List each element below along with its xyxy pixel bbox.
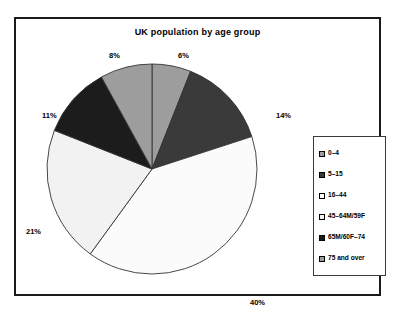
legend-item-label: 16–44 xyxy=(328,192,346,199)
chart-title: UK population by age group xyxy=(16,27,379,37)
legend-item-label: 75 and over xyxy=(328,255,365,262)
legend-item[interactable]: 16–44 xyxy=(314,185,385,206)
legend-item[interactable]: 45–64M/59F xyxy=(314,206,385,227)
pie-slice-label: 8% xyxy=(109,51,120,60)
legend-swatch-icon xyxy=(319,193,325,199)
pie-slice-label: 6% xyxy=(178,51,189,60)
legend-item[interactable]: 5–15 xyxy=(314,164,385,185)
pie-slice-label: 14% xyxy=(276,111,291,120)
legend-swatch-icon xyxy=(319,235,325,241)
chart-frame: UK population by age group 6%14%40%21%11… xyxy=(14,17,381,296)
legend-swatch-icon xyxy=(319,214,325,220)
pie-slices xyxy=(47,64,257,274)
legend-swatch-icon xyxy=(319,172,325,178)
pie-slice-label: 11% xyxy=(42,111,57,120)
chart-page: UK population by age group 6%14%40%21%11… xyxy=(0,0,395,315)
legend-item-label: 45–64M/59F xyxy=(328,213,365,220)
legend-item-label: 0–4 xyxy=(328,150,339,157)
legend-swatch-icon xyxy=(319,256,325,262)
legend-item[interactable]: 75 and over xyxy=(314,248,385,269)
pie-chart xyxy=(46,63,258,275)
legend-item[interactable]: 0–4 xyxy=(314,143,385,164)
chart-legend: 0–45–1516–4445–64M/59F65M/60F–7475 and o… xyxy=(313,136,386,276)
legend-item-label: 5–15 xyxy=(328,171,343,178)
legend-swatch-icon xyxy=(319,151,325,157)
pie-slice-label: 40% xyxy=(250,298,265,307)
pie-svg xyxy=(46,63,258,275)
legend-item-label: 65M/60F–74 xyxy=(328,234,365,241)
pie-slice-label: 21% xyxy=(26,227,41,236)
legend-item[interactable]: 65M/60F–74 xyxy=(314,227,385,248)
